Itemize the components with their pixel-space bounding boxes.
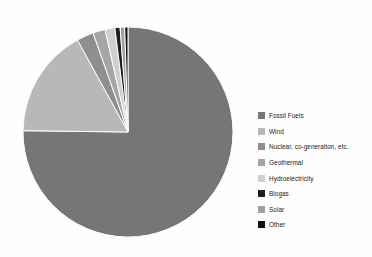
legend-item-label: Wind xyxy=(269,128,284,135)
pie-chart-svg xyxy=(22,26,234,238)
legend-item[interactable]: Fossil Fuels xyxy=(258,108,370,124)
legend-item[interactable]: Biogas xyxy=(258,186,370,202)
legend-item-label: Geothermal xyxy=(269,159,303,166)
legend-swatch-icon xyxy=(258,143,265,150)
legend-item-label: Solar xyxy=(269,206,284,213)
legend-swatch-icon xyxy=(258,190,265,197)
legend-item[interactable]: Nuclear, co-generation, etc. xyxy=(258,139,370,155)
legend-item[interactable]: Wind xyxy=(258,124,370,140)
legend-item[interactable]: Other xyxy=(258,217,370,233)
legend-item-label: Nuclear, co-generation, etc. xyxy=(269,143,349,150)
legend-item[interactable]: Hydroelectricity xyxy=(258,170,370,186)
legend-swatch-icon xyxy=(258,221,265,228)
legend-item-label: Hydroelectricity xyxy=(269,175,313,182)
legend-swatch-icon xyxy=(258,159,265,166)
chart-page: Fossil FuelsWindNuclear, co-generation, … xyxy=(0,0,372,257)
chart-legend: Fossil FuelsWindNuclear, co-generation, … xyxy=(258,108,370,233)
legend-item-label: Other xyxy=(269,221,285,228)
legend-swatch-icon xyxy=(258,175,265,182)
pie-slice-group xyxy=(23,27,233,237)
legend-swatch-icon xyxy=(258,128,265,135)
legend-item[interactable]: Solar xyxy=(258,202,370,218)
legend-swatch-icon xyxy=(258,206,265,213)
legend-swatch-icon xyxy=(258,112,265,119)
legend-item[interactable]: Geothermal xyxy=(258,155,370,171)
pie-chart xyxy=(22,26,234,238)
legend-item-label: Fossil Fuels xyxy=(269,112,304,119)
legend-item-label: Biogas xyxy=(269,190,289,197)
